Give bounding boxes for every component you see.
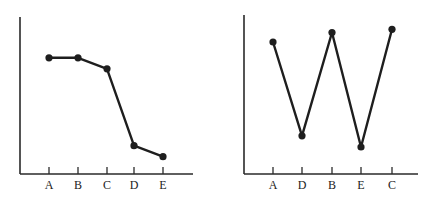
data-point-marker: [103, 65, 110, 72]
data-point-marker: [130, 142, 137, 149]
x-tick-label: C: [388, 178, 396, 192]
line-charts-figure: ABCDE ADBEC: [0, 0, 431, 197]
data-point-marker: [269, 38, 276, 45]
data-point-marker: [45, 54, 52, 61]
x-tick-label: E: [159, 178, 166, 192]
data-point-marker: [74, 54, 81, 61]
x-tick-label: D: [130, 178, 139, 192]
x-tick-label: B: [74, 178, 82, 192]
x-tick-label: A: [269, 178, 278, 192]
data-point-marker: [298, 132, 305, 139]
data-line: [273, 29, 392, 147]
x-tick-label: E: [357, 178, 364, 192]
x-tick-label: A: [45, 178, 54, 192]
left-line-chart: ABCDE: [20, 17, 193, 192]
data-line: [49, 58, 163, 157]
right-line-chart: ADBEC: [244, 15, 418, 192]
data-point-marker: [328, 29, 335, 36]
data-point-marker: [159, 153, 166, 160]
x-tick-label: C: [103, 178, 111, 192]
data-point-marker: [388, 26, 395, 33]
x-tick-label: D: [298, 178, 307, 192]
x-tick-label: B: [328, 178, 336, 192]
data-point-marker: [357, 143, 364, 150]
